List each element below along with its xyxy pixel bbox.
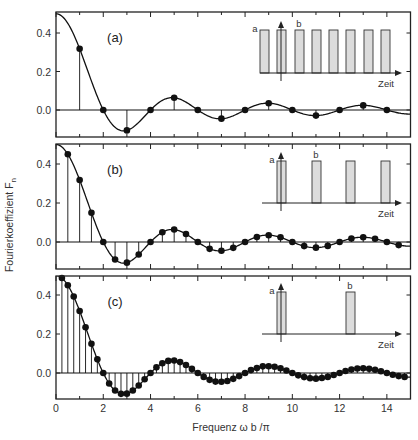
- data-point: [171, 226, 178, 233]
- data-point: [195, 239, 202, 246]
- panels: 0.00.20.4(a)abZeit0.00.20.4(b)abZeit0.00…: [36, 12, 410, 399]
- y-tick-label: 0.0: [36, 236, 51, 248]
- panel-c: 0.00.20.4(c)abZeit: [36, 275, 410, 399]
- data-point: [206, 377, 213, 384]
- data-point: [342, 368, 349, 375]
- x-tick-label: 10: [286, 402, 298, 414]
- data-point: [106, 380, 113, 387]
- y-axis-title-subscript: n: [9, 178, 18, 182]
- y-tick-label: 0.0: [36, 367, 51, 379]
- x-tick-label: 12: [334, 402, 346, 414]
- data-point: [366, 365, 373, 372]
- data-point: [378, 368, 385, 375]
- data-point: [330, 372, 337, 379]
- data-point: [324, 243, 331, 250]
- data-point: [124, 127, 131, 134]
- data-point: [283, 367, 290, 374]
- x-tick-label: 2: [100, 402, 106, 414]
- inset-time-label: Zeit: [378, 208, 394, 219]
- data-point: [384, 239, 391, 246]
- data-point: [336, 239, 343, 246]
- x-tick-label: 14: [381, 402, 393, 414]
- data-point: [360, 365, 367, 372]
- inset-time-label: Zeit: [378, 78, 394, 89]
- data-points: [76, 45, 390, 133]
- data-point: [313, 112, 320, 119]
- y-tick-label: 0.4: [36, 27, 51, 39]
- time-axis-arrow-icon: [395, 70, 402, 76]
- data-point: [112, 387, 119, 394]
- data-point: [147, 107, 154, 114]
- data-point: [271, 363, 278, 370]
- data-point: [76, 45, 83, 52]
- inset-label-b: b: [296, 18, 301, 29]
- data-point: [336, 370, 343, 377]
- data-point: [171, 357, 178, 364]
- y-tick-label: 0.2: [36, 66, 51, 78]
- data-point: [124, 259, 131, 266]
- data-point: [324, 374, 331, 381]
- data-point: [289, 107, 296, 114]
- data-point: [254, 365, 261, 372]
- data-point: [354, 365, 361, 372]
- data-point: [372, 235, 379, 242]
- data-point: [372, 366, 379, 373]
- data-point: [65, 282, 72, 289]
- data-point: [218, 247, 225, 254]
- data-point: [171, 94, 178, 101]
- data-point: [189, 366, 196, 373]
- data-point: [183, 231, 190, 238]
- data-point: [100, 370, 107, 377]
- data-point: [384, 370, 391, 377]
- data-point: [348, 366, 355, 373]
- data-point: [100, 239, 107, 246]
- y-tick-label: 0.0: [36, 104, 51, 116]
- inset-label-a: a: [269, 285, 275, 296]
- y-tick-label: 0.2: [36, 197, 51, 209]
- data-point: [259, 363, 266, 370]
- panel-label: (b): [107, 162, 123, 177]
- data-point: [177, 359, 184, 366]
- data-point: [242, 107, 249, 114]
- data-point: [301, 243, 308, 250]
- data-point: [94, 356, 101, 363]
- data-point: [384, 107, 391, 114]
- data-point: [153, 364, 160, 371]
- time-axis-arrow-icon: [395, 200, 402, 206]
- amplitude-axis-arrow-icon: [278, 21, 284, 28]
- data-point: [218, 378, 225, 385]
- data-point: [65, 151, 72, 158]
- y-tick-label: 0.2: [36, 328, 51, 340]
- amplitude-axis-arrow-icon: [278, 283, 284, 290]
- pulse: [312, 161, 321, 203]
- inset-pulse-train: abZeit: [262, 149, 402, 219]
- inset-label-b: b: [347, 280, 352, 291]
- data-point: [307, 375, 314, 382]
- inset-pulse-train: abZeit: [262, 280, 402, 350]
- x-tick-label: 6: [195, 402, 201, 414]
- data-point: [124, 390, 131, 397]
- fourier-coefficient-figure: 0.00.20.4(a)abZeit0.00.20.4(b)abZeit0.00…: [0, 0, 418, 440]
- pulse: [260, 30, 269, 73]
- data-point: [265, 100, 272, 107]
- amplitude-axis-arrow-icon: [278, 152, 284, 159]
- data-point: [313, 244, 320, 251]
- y-axis-title-main: Fourierkoeffizient F: [3, 182, 15, 272]
- pulse: [329, 30, 338, 73]
- data-point: [100, 107, 107, 114]
- data-point: [159, 229, 166, 236]
- data-point: [88, 209, 95, 216]
- data-point: [135, 251, 142, 258]
- data-point: [165, 358, 172, 365]
- data-point: [360, 234, 367, 241]
- pulse: [364, 30, 373, 73]
- data-point: [76, 308, 83, 315]
- data-point: [277, 234, 284, 241]
- data-point: [206, 246, 213, 253]
- inset-label-a: a: [252, 23, 258, 34]
- data-point: [135, 382, 142, 389]
- data-point: [230, 376, 237, 383]
- data-point: [159, 360, 166, 367]
- data-point: [336, 107, 343, 114]
- data-point: [141, 376, 148, 383]
